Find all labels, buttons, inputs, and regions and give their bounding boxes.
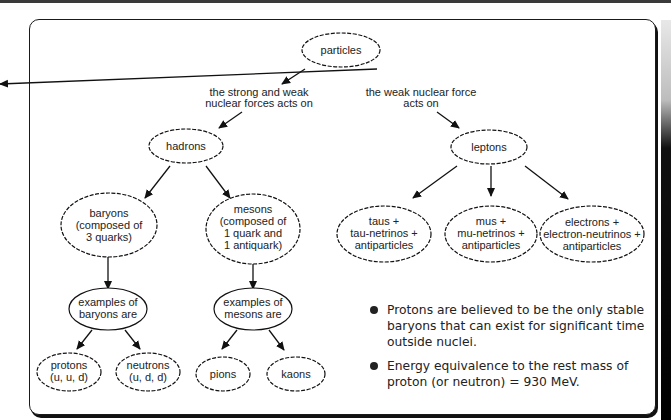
node-baryons-line3: 3 quarks) (86, 231, 132, 243)
edge-label-strong-line2: nuclear forces acts on (205, 97, 313, 109)
notes-list: Protons are believed to be the only stab… (370, 302, 660, 398)
note-item: Protons are believed to be the only stab… (370, 302, 660, 350)
arrow-strong-label-to-hadrons (219, 112, 242, 128)
arrow-leptons-to-taus (413, 166, 457, 198)
node-mus-line1: mus + (476, 215, 506, 227)
node-baryons-line2: (composed of (76, 219, 144, 231)
node-protons-line1: protons (51, 359, 88, 371)
node-meson-examples-line1: examples of (223, 296, 283, 308)
node-neutrons-line2: (u, d, d) (129, 371, 167, 383)
node-electrons-line2: electron-neutrinos + (543, 228, 641, 240)
node-mus-line3: antiparticles (462, 239, 521, 251)
note-text: Energy equivalence to the rest mass of p… (387, 359, 628, 389)
arrow-weak-label-to-leptons (437, 112, 459, 128)
node-mesons-line1: mesons (234, 203, 273, 215)
node-kaons: kaons (281, 368, 311, 380)
node-mesons-line3: 1 quark and (224, 227, 282, 239)
arrow-to-protons (77, 330, 92, 349)
note-text: Protons are believed to be the only stab… (387, 303, 644, 349)
arrow-particles-to-strong-label (282, 69, 305, 84)
node-pions: pions (210, 368, 237, 380)
node-neutrons-line1: neutrons (127, 359, 170, 371)
node-electrons-line3: antiparticles (563, 240, 622, 252)
bullet-icon (370, 306, 378, 314)
node-mesons-line2: (composed of (220, 215, 288, 227)
node-hadrons: hadrons (166, 140, 206, 152)
node-baryon-examples-line2: baryons are (79, 308, 137, 320)
arrow-leptons-to-electrons (525, 166, 568, 199)
arrow-to-pions (222, 330, 237, 349)
node-electrons-line1: electrons + (565, 216, 619, 228)
node-mesons-line4: 1 antiquark) (224, 239, 282, 251)
arrow-hadrons-to-baryons (145, 166, 170, 198)
edge-label-weak-line2: acts on (403, 97, 438, 109)
node-baryons-line1: baryons (89, 207, 129, 219)
node-taus-line1: taus + (369, 215, 399, 227)
node-baryon-examples-line1: examples of (78, 296, 138, 308)
node-protons-line2: (u, u, d) (50, 371, 88, 383)
note-item: Energy equivalence to the rest mass of p… (370, 358, 660, 390)
node-taus-line3: antiparticles (355, 239, 414, 251)
node-meson-examples-line2: mesons are (224, 308, 281, 320)
arrow-to-neutrons (125, 330, 140, 349)
bullet-icon (370, 362, 378, 370)
arrow-to-kaons (269, 330, 284, 350)
arrow-hadrons-to-mesons (206, 166, 230, 198)
node-mus-line2: mu-netrinos + (457, 227, 525, 239)
node-particles: particles (321, 44, 362, 56)
node-leptons: leptons (471, 141, 507, 153)
node-taus-line2: tau-netrinos + (350, 227, 418, 239)
arrow-particles-to-weak-label (0, 69, 377, 84)
